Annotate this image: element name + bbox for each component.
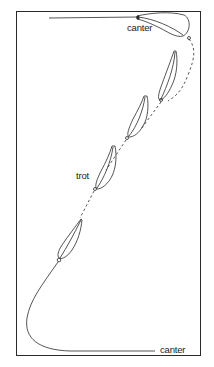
joint-marker-5 (57, 258, 61, 262)
label-canter-top: canter (127, 22, 152, 33)
joint-marker-4 (94, 188, 97, 191)
hoofprint-shape-3-vein (129, 97, 145, 136)
hoofprint-shape-3 (128, 96, 148, 137)
label-trot: trot (76, 170, 89, 181)
hoofprint-shape-4-vein (97, 147, 113, 188)
canter-track-bottom (27, 262, 155, 351)
joint-marker-3 (126, 137, 129, 140)
gait-transition-diagram (0, 0, 214, 367)
hoofprint-tip-1 (137, 16, 139, 19)
label-canter-bottom: canter (160, 344, 185, 355)
canter-track-top (49, 17, 138, 18)
hoofprint-shape-4 (96, 146, 116, 189)
trot-transition-path-4 (80, 191, 94, 218)
